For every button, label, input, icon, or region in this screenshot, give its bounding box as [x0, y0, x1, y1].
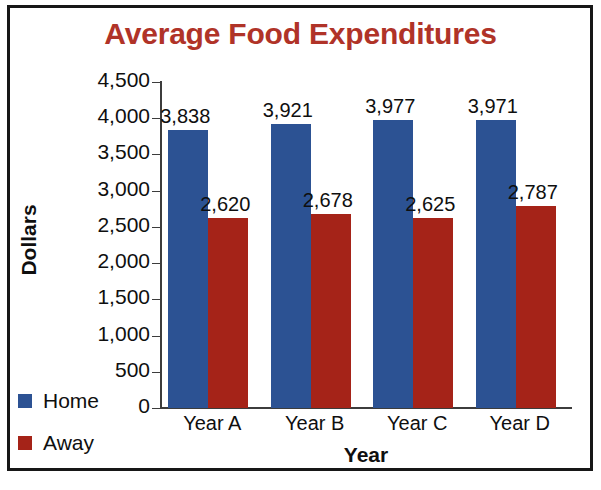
bar-away-year-c [413, 218, 453, 408]
x-axis-category-label: Year D [469, 412, 572, 435]
y-axis-tick-label: 500 [50, 358, 150, 382]
y-axis-tick-mark [152, 263, 160, 264]
x-axis-title: Year [161, 443, 571, 467]
y-axis-tick-mark [152, 82, 160, 83]
y-axis-tick-label: 2,500 [50, 213, 150, 237]
bar-value-label: 3,921 [263, 99, 313, 122]
legend-swatch-icon [18, 394, 32, 408]
y-axis-tick-mark [152, 299, 160, 300]
y-axis-tick-mark [152, 227, 160, 228]
legend-item-away[interactable]: Away [18, 431, 99, 455]
bar-home-year-d [476, 120, 516, 408]
plot-area: 3,8382,6203,9212,6783,9772,6253,9712,787 [161, 82, 571, 408]
chart-page: Average Food Expenditures 4,5004,0003,50… [0, 0, 601, 490]
bar-away-year-d [516, 206, 556, 408]
bar-home-year-a [168, 130, 208, 408]
legend-label: Away [43, 431, 94, 455]
y-axis-tick-label: 3,500 [50, 140, 150, 164]
y-axis-tick-mark [152, 336, 160, 337]
y-axis-tick-label: 4,000 [50, 104, 150, 128]
y-axis-tick-mark [152, 154, 160, 155]
y-axis-tick-mark [152, 118, 160, 119]
x-axis-category-label: Year C [366, 412, 469, 435]
bar-home-year-c [373, 120, 413, 408]
bar-value-label: 2,678 [303, 189, 353, 212]
bar-away-year-b [311, 214, 351, 408]
legend-swatch-icon [18, 436, 32, 450]
chart-legend: HomeAway [18, 389, 99, 473]
x-axis-category-label: Year B [264, 412, 367, 435]
y-axis-tick-label: 4,500 [50, 68, 150, 92]
y-axis-tick-mark [152, 372, 160, 373]
y-axis-tick-mark [152, 191, 160, 192]
bar-home-year-b [271, 124, 311, 408]
bar-value-label: 3,977 [365, 95, 415, 118]
y-axis-tick-label: 2,000 [50, 249, 150, 273]
x-axis-category-label: Year A [161, 412, 264, 435]
y-axis-tick-label: 1,500 [50, 285, 150, 309]
legend-item-home[interactable]: Home [18, 389, 99, 413]
y-axis-tick-label: 3,000 [50, 177, 150, 201]
bar-value-label: 2,620 [200, 193, 250, 216]
y-axis-tick-label: 1,000 [50, 322, 150, 346]
legend-label: Home [43, 389, 99, 413]
y-axis-title: Dollars [17, 180, 41, 300]
bar-value-label: 3,971 [468, 95, 518, 118]
bar-value-label: 2,625 [405, 193, 455, 216]
bar-value-label: 2,787 [508, 181, 558, 204]
bar-value-label: 3,838 [160, 105, 210, 128]
bar-away-year-a [208, 218, 248, 408]
y-axis-tick-mark [152, 408, 160, 409]
